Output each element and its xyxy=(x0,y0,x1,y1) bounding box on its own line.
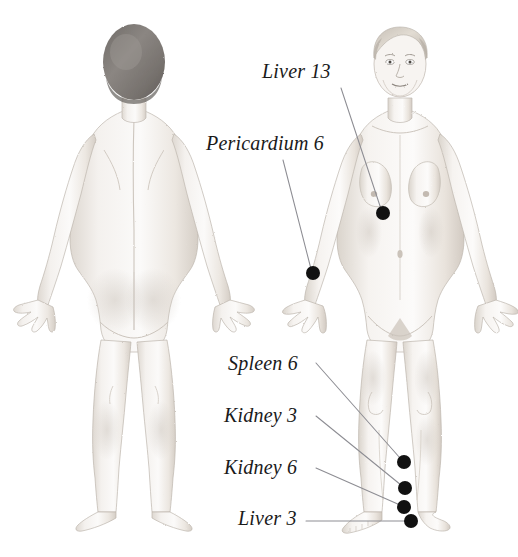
back-calf-left-shade xyxy=(93,400,121,460)
label-liver-13: Liver 13 xyxy=(262,61,331,81)
nipple-right xyxy=(423,191,429,197)
front-thigh-left-shade xyxy=(360,350,386,406)
acupoint-spleen-6 xyxy=(397,455,411,469)
pupil-right xyxy=(409,61,412,64)
front-calf-right-shade xyxy=(415,414,439,466)
acupoint-kidney-6 xyxy=(397,500,411,514)
label-spleen-6: Spleen 6 xyxy=(228,353,298,373)
label-kidney-6: Kidney 6 xyxy=(224,457,297,477)
navel xyxy=(397,250,402,258)
flank-right-shade xyxy=(418,206,444,258)
label-pericardium-6: Pericardium 6 xyxy=(206,133,324,153)
pupil-left xyxy=(389,61,392,64)
acupressure-diagram: Liver 13 Pericardium 6 Spleen 6 Kidney 3… xyxy=(0,0,518,557)
back-hair-highlight xyxy=(110,34,142,70)
label-liver-3: Liver 3 xyxy=(238,508,297,528)
front-neck xyxy=(388,98,412,123)
back-calf-right-shade xyxy=(147,400,175,460)
acupoint-kidney-3 xyxy=(398,481,412,495)
acupoint-liver-13 xyxy=(376,206,390,220)
acupoint-liver-3 xyxy=(404,514,418,528)
acupoint-pericardium-6 xyxy=(306,266,320,280)
label-kidney-3: Kidney 3 xyxy=(224,405,297,425)
front-thigh-right-shade xyxy=(414,350,440,406)
